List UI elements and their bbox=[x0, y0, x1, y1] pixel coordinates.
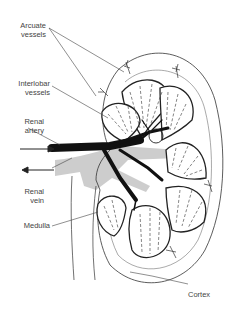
label-renal-vein: Renal vein bbox=[18, 187, 44, 205]
ureter-lines bbox=[71, 176, 96, 280]
label-line: Renal bbox=[16, 117, 44, 126]
label-arcuate-vessels: Arcuate vessels bbox=[16, 21, 46, 39]
label-line: artery bbox=[16, 126, 44, 135]
flow-arrows bbox=[20, 146, 54, 173]
label-line: vessels bbox=[8, 88, 50, 97]
label-line: Renal bbox=[18, 187, 44, 196]
label-line: vessels bbox=[16, 30, 46, 39]
renal-vein-shape bbox=[55, 146, 180, 192]
label-line: Interlobar bbox=[8, 79, 50, 88]
label-renal-artery: Renal artery bbox=[16, 117, 44, 135]
label-line: Arcuate bbox=[16, 21, 46, 30]
vein-arrow-icon bbox=[22, 167, 28, 173]
kidney-diagram bbox=[0, 0, 232, 309]
label-cortex: Cortex bbox=[188, 290, 210, 299]
label-medulla: Medulla bbox=[18, 221, 50, 230]
label-line: vein bbox=[18, 196, 44, 205]
label-interlobar-vessels: Interlobar vessels bbox=[8, 79, 50, 97]
